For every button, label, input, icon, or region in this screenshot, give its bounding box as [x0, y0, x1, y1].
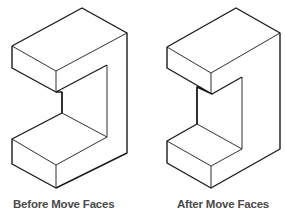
after-lower-front-top-edge — [167, 141, 211, 166]
before-outline — [12, 8, 127, 188]
before-upper-front-top-edge — [12, 46, 56, 71]
before-upper-front-right-edge — [56, 33, 127, 71]
before-caption: Before Move Faces — [13, 198, 114, 210]
after-lower-top-right-edge — [211, 149, 242, 166]
before-shape — [12, 8, 127, 188]
before-inner-bottom-edge — [62, 113, 107, 137]
before-lower-top-right-edge — [56, 137, 107, 165]
after-upper-front-right-edge — [211, 33, 280, 73]
before-inner-top-edge — [56, 65, 107, 92]
after-outline — [167, 8, 280, 188]
after-caption: After Move Faces — [177, 198, 269, 210]
after-inner-top-edge — [212, 77, 242, 94]
after-inner-bottom-edge — [197, 124, 242, 149]
after-shape — [167, 8, 280, 188]
after-upper-front-top-edge — [167, 47, 211, 73]
move-faces-diagram — [0, 0, 285, 214]
before-lower-front-top-edge — [12, 139, 56, 165]
